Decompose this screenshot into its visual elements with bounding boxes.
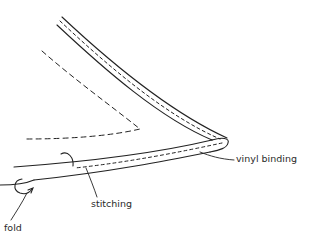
label-stitching: stitching — [91, 199, 132, 209]
binding-diagram: vinyl binding stitching fold — [0, 0, 330, 236]
hidden-edge — [26, 51, 140, 139]
label-fold: fold — [4, 223, 22, 233]
binding-tip — [210, 138, 228, 152]
label-vinyl-binding: vinyl binding — [236, 154, 297, 164]
diagram-illustration — [0, 0, 330, 236]
binding-upper-outer — [62, 17, 227, 138]
leader-fold — [11, 193, 27, 220]
curl-mark — [61, 153, 73, 166]
